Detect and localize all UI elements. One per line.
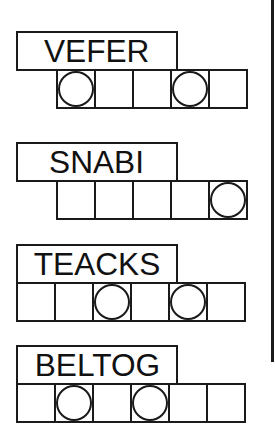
answer-cell-circled[interactable]	[170, 69, 210, 109]
answer-cell[interactable]	[92, 383, 132, 423]
circle-marker-icon	[58, 71, 94, 107]
scrambled-word: TEACKS	[34, 249, 161, 280]
answer-cell-circled[interactable]	[56, 69, 96, 109]
scrambled-word-box: SNABI	[16, 142, 178, 182]
answer-cell[interactable]	[94, 69, 134, 109]
circle-marker-icon	[56, 385, 92, 421]
scrambled-word-box: TEACKS	[16, 244, 178, 284]
answer-cell[interactable]	[54, 282, 94, 322]
answer-cell-circled[interactable]	[168, 282, 208, 322]
answer-cell-circled[interactable]	[92, 282, 132, 322]
circle-marker-icon	[210, 182, 246, 218]
circle-marker-icon	[172, 71, 208, 107]
answer-cells	[56, 69, 248, 109]
answer-cell[interactable]	[132, 69, 172, 109]
answer-cell[interactable]	[208, 69, 248, 109]
scrambled-word-box: VEFER	[16, 31, 178, 71]
answer-cell[interactable]	[132, 180, 172, 220]
answer-cell[interactable]	[168, 383, 208, 423]
scrambled-word-box: BELTOG	[16, 345, 178, 385]
answer-cells	[16, 282, 246, 322]
answer-cell[interactable]	[94, 180, 134, 220]
answer-cell[interactable]	[16, 383, 56, 423]
scrambled-word: VEFER	[44, 36, 149, 67]
answer-cell[interactable]	[206, 383, 246, 423]
circle-marker-icon	[132, 385, 168, 421]
answer-cells	[16, 383, 246, 423]
answer-cell-circled[interactable]	[130, 383, 170, 423]
answer-cell[interactable]	[130, 282, 170, 322]
answer-cell[interactable]	[56, 180, 96, 220]
answer-cell[interactable]	[16, 282, 56, 322]
circle-marker-icon	[94, 284, 130, 320]
answer-cell[interactable]	[170, 180, 210, 220]
right-divider-line	[271, 0, 274, 362]
answer-cells	[56, 180, 248, 220]
scrambled-word: SNABI	[50, 147, 145, 178]
answer-cell-circled[interactable]	[208, 180, 248, 220]
scrambled-word: BELTOG	[34, 350, 159, 381]
circle-marker-icon	[170, 284, 206, 320]
answer-cell[interactable]	[206, 282, 246, 322]
answer-cell-circled[interactable]	[54, 383, 94, 423]
